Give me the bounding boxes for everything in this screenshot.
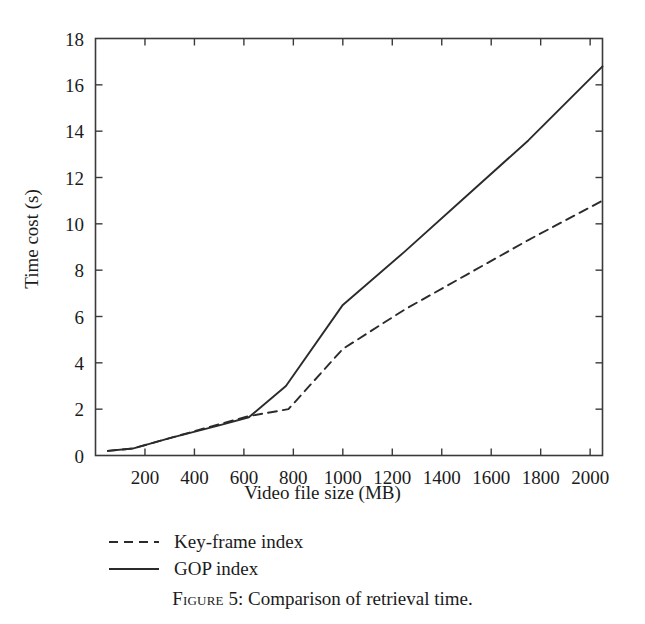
y-axis-title: Time cost (s): [21, 159, 43, 319]
caption-number: 5:: [228, 588, 243, 609]
chart-canvas: [0, 0, 645, 500]
retrieval-time-line-chart: 024681012141618 200400600800100012001400…: [0, 0, 645, 500]
figure-caption: Figure 5: Comparison of retrieval time.: [0, 588, 645, 610]
legend-label: Key-frame index: [174, 531, 303, 553]
y-tick-label: 2: [40, 400, 84, 419]
y-tick-label: 18: [40, 29, 84, 48]
y-tick-label: 4: [40, 353, 84, 372]
legend-line-sample-solid: [108, 562, 160, 576]
figure-page: 024681012141618 200400600800100012001400…: [0, 0, 645, 624]
legend-item[interactable]: GOP index: [108, 555, 528, 582]
caption-figure-word: Figure: [172, 588, 223, 609]
y-tick-label: 16: [40, 75, 84, 94]
y-tick-label: 10: [40, 214, 84, 233]
y-tick-label: 0: [40, 446, 84, 465]
y-tick-label: 8: [40, 261, 84, 280]
legend-line-sample-dashed: [108, 535, 160, 549]
x-axis-title: Video file size (MB): [0, 482, 645, 504]
caption-text: Comparison of retrieval time.: [248, 588, 473, 609]
plot-frame: [96, 39, 603, 456]
chart-legend: Key-frame indexGOP index: [108, 528, 528, 582]
y-tick-label: 14: [40, 122, 84, 141]
y-tick-label: 6: [40, 307, 84, 326]
legend-item[interactable]: Key-frame index: [108, 528, 528, 555]
y-tick-label: 12: [40, 168, 84, 187]
legend-label: GOP index: [174, 558, 258, 580]
